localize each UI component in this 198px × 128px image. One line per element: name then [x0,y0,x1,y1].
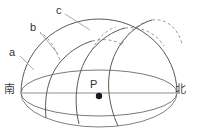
sun-path-a-front-arc [46,41,92,118]
leader-line-b [40,32,58,54]
label-sun-path-a: a [9,47,15,58]
sun-path-c-front-arc [109,20,152,126]
celestial-sphere-diagram: a b c 南 北 P [0,0,198,128]
diagram-canvas [0,0,198,128]
sun-path-b-front-arc [76,28,125,124]
sun-path-b-back-arc [125,28,164,46]
observer-point-marker [96,93,102,99]
label-direction-north: 北 [175,84,186,95]
leader-line-a [20,56,34,70]
label-observer-point: P [90,79,97,90]
label-sun-path-b: b [30,22,36,33]
label-direction-south: 南 [4,84,15,95]
sun-path-c-back-arc [152,20,182,44]
sun-path-a-dashed-extension [40,33,60,60]
leader-line-c [65,14,90,30]
dome-outline-arc [21,19,177,93]
label-sun-path-c: c [56,5,62,16]
